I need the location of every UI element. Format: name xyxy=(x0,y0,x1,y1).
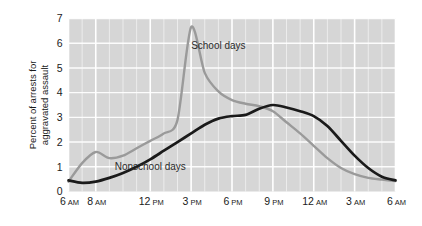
x-tick-label: 3PM xyxy=(183,195,202,207)
x-tick-meridiem: AM xyxy=(316,198,327,207)
y-tick-label: 2 xyxy=(57,136,63,148)
arrests-by-hour-line-chart: 01234567 6AM8AM12PM3PM6PM9PM12AM3AM6AM P… xyxy=(0,0,422,226)
x-axis-ticks: 6AM8AM12PM3PM6PM9PM12AM3AM6AM xyxy=(60,195,406,207)
y-tick-label: 3 xyxy=(57,111,63,123)
x-tick-hour: 3 xyxy=(183,195,189,207)
x-tick-hour: 3 xyxy=(346,195,352,207)
y-axis-label-line-1: Percent of arrests for xyxy=(27,61,38,150)
y-tick-label: 6 xyxy=(57,37,63,49)
x-tick-meridiem: PM xyxy=(231,198,242,207)
x-tick-label: 12PM xyxy=(139,195,164,207)
x-tick-hour: 12 xyxy=(302,195,314,207)
x-tick-meridiem: AM xyxy=(395,198,406,207)
x-tick-meridiem: AM xyxy=(95,198,106,207)
x-tick-hour: 9 xyxy=(264,195,270,207)
y-tick-label: 1 xyxy=(57,161,63,173)
x-tick-meridiem: PM xyxy=(153,198,164,207)
x-tick-hour: 6 xyxy=(223,195,229,207)
y-tick-label: 4 xyxy=(57,86,63,98)
x-tick-meridiem: PM xyxy=(190,198,201,207)
x-tick-label: 8AM xyxy=(87,195,106,207)
x-tick-hour: 6 xyxy=(387,195,393,207)
chart-container: 01234567 6AM8AM12PM3PM6PM9PM12AM3AM6AM P… xyxy=(0,0,422,226)
y-axis-label: Percent of arrests foraggravated assault xyxy=(27,61,50,150)
x-tick-hour: 12 xyxy=(139,195,151,207)
x-tick-label: 9PM xyxy=(264,195,283,207)
annotation-nonschool-days: Nonschool days xyxy=(115,161,186,172)
x-tick-label: 6PM xyxy=(223,195,242,207)
x-tick-label: 3AM xyxy=(346,195,365,207)
annotation-school-days: School days xyxy=(191,40,245,51)
x-tick-meridiem: PM xyxy=(272,198,283,207)
x-tick-hour: 6 xyxy=(60,195,66,207)
y-axis-label-line-2: aggravated assault xyxy=(39,65,50,146)
x-tick-label: 6AM xyxy=(60,195,79,207)
y-tick-label: 5 xyxy=(57,62,63,74)
y-axis-ticks: 01234567 xyxy=(57,12,63,197)
x-tick-label: 6AM xyxy=(387,195,406,207)
x-tick-hour: 8 xyxy=(87,195,93,207)
x-tick-meridiem: AM xyxy=(354,198,365,207)
x-tick-meridiem: AM xyxy=(68,198,79,207)
x-tick-label: 12AM xyxy=(302,195,327,207)
y-tick-label: 7 xyxy=(57,12,63,24)
